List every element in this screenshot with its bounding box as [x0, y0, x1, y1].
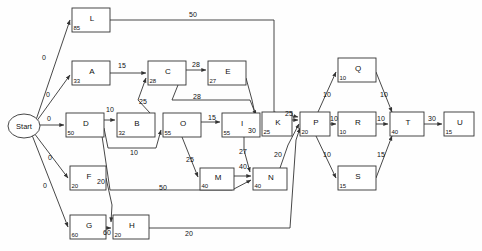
node-duration: 28	[150, 78, 157, 84]
edge-weight-o-m: 25	[186, 156, 194, 163]
edge-weight-b-c: 25	[139, 98, 147, 105]
node-label: F	[87, 172, 92, 181]
node-label: S	[355, 172, 360, 181]
node-duration: 40	[202, 183, 209, 189]
node-d[interactable]: D50	[66, 113, 104, 137]
node-duration: 33	[74, 78, 81, 84]
node-label: C	[165, 67, 171, 76]
node-label: O	[180, 119, 186, 128]
node-t[interactable]: T40	[390, 112, 424, 136]
node-n[interactable]: N40	[253, 168, 287, 190]
edge-weight-p-s: 10	[323, 151, 331, 158]
node-label: Q	[355, 64, 361, 73]
node-duration: 15	[446, 129, 453, 135]
edge-weight-g-h: 60	[103, 229, 111, 236]
node-label: H	[129, 221, 135, 230]
edge-start-g	[32, 135, 68, 227]
node-label: M	[215, 173, 222, 182]
edge-weight-d-n: 50	[159, 184, 167, 191]
node-duration: 32	[119, 130, 126, 136]
node-s[interactable]: S15	[338, 166, 376, 190]
node-b[interactable]: B32	[117, 113, 155, 137]
edge-start-a	[36, 75, 70, 122]
node-duration: 20	[115, 232, 122, 238]
network-diagram-canvas: L85A33C28E27D50B32O55I55K25P20F20M40N40G…	[0, 0, 482, 251]
start-node-label: Start	[16, 122, 33, 131]
edge-start-l	[36, 20, 70, 120]
node-label: K	[275, 118, 281, 127]
network-diagram-svg: L85A33C28E27D50B32O55I55K25P20F20M40N40G…	[0, 0, 482, 251]
edge-weight-o-i: 15	[208, 114, 216, 121]
node-c[interactable]: C28	[148, 61, 186, 85]
edge-weight-p-q: 10	[323, 91, 331, 98]
node-duration: 10	[340, 75, 347, 81]
node-label: U	[457, 118, 463, 127]
node-label: N	[268, 173, 274, 182]
edge-weight-start-g: 0	[43, 182, 47, 189]
node-m[interactable]: M40	[200, 168, 234, 190]
edge-weight-d-b: 10	[106, 106, 114, 113]
edge-weight-l-p: 50	[189, 11, 197, 18]
node-duration: 55	[224, 130, 231, 136]
node-label: T	[406, 118, 411, 127]
edge-weight-m-n: 40	[239, 163, 247, 170]
node-duration: 10	[340, 129, 347, 135]
edge-weight-t-u: 30	[428, 115, 436, 122]
edge-c-k	[172, 85, 256, 115]
node-duration: 20	[302, 129, 309, 135]
node-duration: 40	[255, 183, 262, 189]
edge-weight-h-p: 20	[185, 230, 193, 237]
node-duration: 85	[74, 25, 81, 31]
node-duration: 50	[68, 130, 75, 136]
node-o[interactable]: O55	[163, 113, 201, 137]
edge-weight-n-p: 20	[274, 151, 282, 158]
node-g[interactable]: G60	[70, 215, 106, 239]
node-label: P	[313, 118, 318, 127]
edge-weight-start-f: 0	[48, 154, 52, 161]
node-label: G	[86, 221, 92, 230]
edge-weight-s-t: 15	[377, 151, 385, 158]
node-duration: 15	[340, 183, 347, 189]
node-h[interactable]: H20	[113, 215, 149, 239]
node-label: D	[83, 119, 89, 128]
edge-weight-i-n: 27	[239, 148, 247, 155]
edge-weight-q-t: 10	[380, 91, 388, 98]
edge-weight-f-h: 20	[97, 178, 105, 185]
node-duration: 27	[210, 78, 217, 84]
node-label: R	[355, 118, 361, 127]
edge-weight-start-d: 0	[47, 115, 51, 122]
node-duration: 20	[72, 183, 79, 189]
edge-weight-c-k: 28	[193, 93, 201, 100]
node-duration: 55	[165, 130, 172, 136]
node-q[interactable]: Q10	[338, 58, 376, 82]
nodes-layer: L85A33C28E27D50B32O55I55K25P20F20M40N40G…	[66, 8, 474, 239]
edge-weight-d-o: 10	[130, 149, 138, 156]
node-duration: 40	[392, 129, 399, 135]
node-r[interactable]: R10	[338, 112, 376, 136]
node-duration: 60	[72, 232, 79, 238]
node-duration: 25	[264, 129, 271, 135]
node-e[interactable]: E27	[208, 61, 246, 85]
node-label: E	[225, 67, 230, 76]
node-label: I	[241, 119, 243, 128]
edge-weight-k-p: 25	[285, 110, 293, 117]
edge-weight-a-c: 15	[118, 62, 126, 69]
node-p[interactable]: P20	[300, 112, 330, 136]
edge-weight-p-r: 10	[330, 115, 338, 122]
node-a[interactable]: A33	[72, 61, 110, 85]
node-start[interactable]: Start	[8, 114, 40, 138]
node-u[interactable]: U15	[444, 112, 474, 136]
node-label: L	[90, 14, 95, 23]
node-label: A	[89, 67, 95, 76]
node-l[interactable]: L85	[72, 8, 110, 32]
edge-weight-r-t: 10	[377, 115, 385, 122]
edge-weight-start-a: 0	[46, 91, 50, 98]
node-label: B	[134, 119, 139, 128]
edge-weight-c-e: 28	[192, 61, 200, 68]
edge-weight-i-k: 30	[248, 127, 256, 134]
edge-weight-start-l: 0	[42, 54, 46, 61]
